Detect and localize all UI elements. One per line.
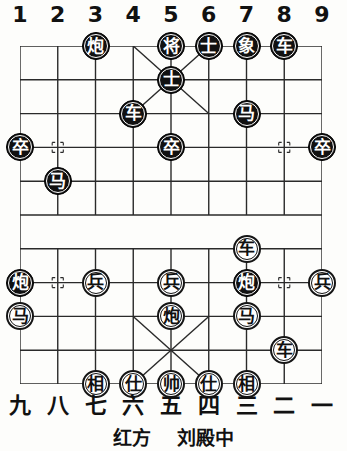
- piece-glyph: 马: [12, 308, 29, 325]
- piece-glyph: 炮: [12, 274, 29, 291]
- red-horse-f1r9[interactable]: 马: [6, 302, 34, 330]
- red-soldier-f3r8[interactable]: 兵: [82, 269, 110, 297]
- piece-glyph: 仕: [200, 376, 217, 393]
- file-label-top-6: 6: [196, 2, 222, 28]
- piece-glyph: 车: [125, 105, 142, 122]
- black-soldier-f9r4[interactable]: 卒: [308, 133, 336, 161]
- piece-glyph: 马: [49, 173, 66, 190]
- file-label-top-8: 8: [271, 2, 297, 28]
- file-label-top-2: 2: [45, 2, 71, 28]
- file-label-bottom-1: 九: [5, 392, 35, 420]
- piece-glyph: 炮: [238, 274, 255, 291]
- red-soldier-f9r8[interactable]: 兵: [308, 269, 336, 297]
- player-name: 刘殿中: [177, 423, 234, 450]
- black-advisor-f6r1[interactable]: 士: [195, 32, 223, 60]
- black-chariot-f8r1[interactable]: 车: [270, 32, 298, 60]
- piece-glyph: 相: [238, 376, 255, 393]
- file-label-top-4: 4: [120, 2, 146, 28]
- black-elephant-f7r1[interactable]: 象: [233, 32, 261, 60]
- red-chariot-f8r10[interactable]: 车: [270, 336, 298, 364]
- file-label-bottom-9: 一: [307, 392, 337, 420]
- file-label-bottom-3: 七: [81, 392, 111, 420]
- black-general-f5r1[interactable]: 将: [157, 32, 185, 60]
- piece-glyph: 炮: [163, 308, 180, 325]
- black-chariot-f4r3[interactable]: 车: [119, 100, 147, 128]
- piece-glyph: 将: [163, 38, 180, 55]
- file-numbers-top: 123456789: [0, 2, 347, 30]
- piece-glyph: 士: [163, 71, 180, 88]
- red-side-label: 红方: [113, 423, 151, 450]
- piece-glyph: 车: [276, 38, 293, 55]
- red-chariot-f7r7[interactable]: 车: [233, 235, 261, 263]
- black-horse-f2r5[interactable]: 马: [44, 167, 72, 195]
- black-horse-f7r3[interactable]: 马: [233, 100, 261, 128]
- piece-glyph: 相: [87, 376, 104, 393]
- black-cannon-f1r8[interactable]: 炮: [6, 269, 34, 297]
- file-label-bottom-5: 五: [156, 392, 186, 420]
- piece-glyph: 卒: [314, 139, 331, 156]
- piece-glyph: 卒: [163, 139, 180, 156]
- black-cannon-f3r1[interactable]: 炮: [82, 32, 110, 60]
- piece-glyph: 兵: [163, 274, 180, 291]
- piece-glyph: 兵: [314, 274, 331, 291]
- file-label-top-7: 7: [234, 2, 260, 28]
- piece-glyph: 马: [238, 308, 255, 325]
- piece-glyph: 车: [276, 342, 293, 359]
- red-horse-f7r9[interactable]: 马: [233, 302, 261, 330]
- piece-glyph: 马: [238, 105, 255, 122]
- file-label-bottom-4: 六: [118, 392, 148, 420]
- black-soldier-f1r4[interactable]: 卒: [6, 133, 34, 161]
- piece-glyph: 炮: [87, 38, 104, 55]
- red-cannon-f5r9[interactable]: 炮: [157, 302, 185, 330]
- piece-glyph: 士: [200, 38, 217, 55]
- black-soldier-f5r4[interactable]: 卒: [157, 133, 185, 161]
- file-numbers-bottom: 九八七六五四三二一: [0, 392, 347, 422]
- file-label-bottom-6: 四: [194, 392, 224, 420]
- file-label-bottom-8: 二: [269, 392, 299, 420]
- caption-bar: 红方 刘殿中: [0, 422, 347, 450]
- piece-glyph: 车: [238, 240, 255, 257]
- red-soldier-f5r8[interactable]: 兵: [157, 269, 185, 297]
- file-label-bottom-7: 三: [232, 392, 262, 420]
- file-label-top-5: 5: [158, 2, 184, 28]
- black-advisor-f5r2[interactable]: 士: [157, 66, 185, 94]
- piece-glyph: 象: [238, 38, 255, 55]
- file-label-top-1: 1: [7, 2, 33, 28]
- piece-glyph: 卒: [12, 139, 29, 156]
- piece-glyph: 兵: [87, 274, 104, 291]
- file-label-top-3: 3: [83, 2, 109, 28]
- file-label-bottom-2: 八: [43, 392, 73, 420]
- piece-glyph: 仕: [125, 376, 142, 393]
- file-label-top-9: 9: [309, 2, 335, 28]
- black-cannon-f7r8[interactable]: 炮: [233, 269, 261, 297]
- piece-glyph: 帅: [163, 376, 180, 393]
- board-grid: [20, 46, 322, 384]
- xiangqi-board[interactable]: 炮将士象车士车马卒卒卒马车炮兵兵炮兵马炮马车相仕帅仕相: [20, 46, 322, 384]
